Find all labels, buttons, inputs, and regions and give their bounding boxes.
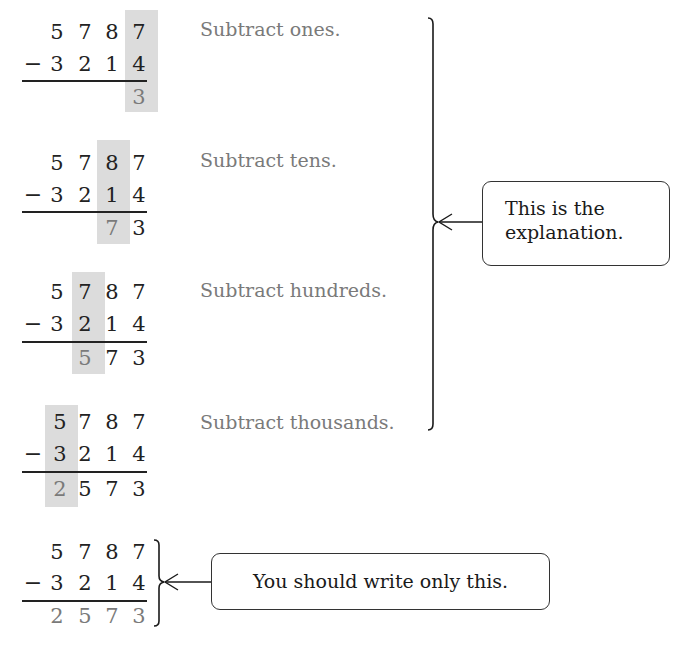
small-brace-icon: [154, 540, 164, 626]
explanation-callout: This is the explanation.: [482, 181, 670, 266]
final-callout: You should write only this.: [211, 553, 550, 610]
large-brace-icon: [428, 18, 438, 430]
explanation-line-1: This is the: [505, 196, 669, 220]
explanation-line-2: explanation.: [505, 220, 669, 244]
final-callout-text: You should write only this.: [253, 570, 508, 592]
